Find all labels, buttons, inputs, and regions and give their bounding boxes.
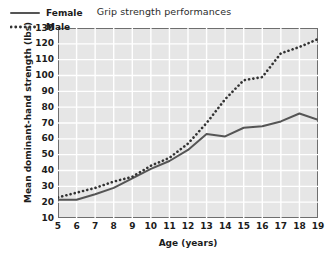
legend-label: Male (46, 22, 70, 32)
y-axis-tick: 40 (6, 166, 54, 175)
y-axis-tick: 60 (6, 134, 54, 143)
legend-label: Female (46, 8, 83, 18)
x-axis-label: Age (years) (58, 238, 318, 248)
y-axis-tick-labels: 130120110100908070605040302010 (6, 0, 54, 258)
legend-item-female[interactable]: Female (10, 6, 106, 20)
plot-area-wrapper (58, 28, 318, 218)
y-axis-tick: 110 (6, 55, 54, 64)
x-axis-tick: 19 (306, 222, 328, 231)
chart-container: Grip strength performances Mean dominant… (0, 0, 328, 258)
chart-legend: FemaleMale (10, 6, 106, 34)
legend-swatch-solid-line-icon (10, 8, 40, 18)
legend-item-male[interactable]: Male (10, 20, 106, 34)
y-axis-tick: 100 (6, 71, 54, 80)
y-axis-tick: 70 (6, 119, 54, 128)
legend-swatch-dotted-line-icon (10, 22, 40, 32)
y-axis-tick: 30 (6, 182, 54, 191)
y-axis-tick: 90 (6, 87, 54, 96)
y-axis-tick: 80 (6, 103, 54, 112)
y-axis-tick: 20 (6, 198, 54, 207)
plot-svg (58, 28, 318, 218)
y-axis-tick: 50 (6, 150, 54, 159)
y-axis-tick: 120 (6, 39, 54, 48)
x-axis-tick-labels: 5678910111213141516171819 (58, 222, 318, 236)
